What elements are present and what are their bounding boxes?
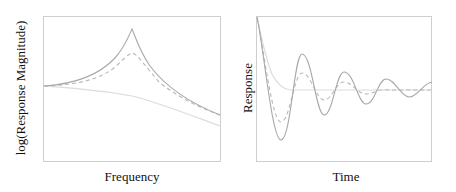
time-curve-heavily-damped <box>257 17 432 90</box>
time-curve-lightly-damped <box>257 17 432 140</box>
frequency-x-axis-label: Frequency <box>82 168 182 186</box>
frequency-response-panel: log(Response Magnitude) Frequency <box>0 0 228 192</box>
frequency-curve-moderately-damped <box>44 53 220 115</box>
frequency-curve-lightly-damped <box>44 29 220 115</box>
time-plot-curves <box>228 0 456 192</box>
frequency-y-axis-label: log(Response Magnitude) <box>13 8 29 168</box>
time-response-panel: Response Time <box>228 0 456 192</box>
frequency-curve-heavily-damped <box>44 86 220 126</box>
frequency-plot-curves <box>0 0 228 192</box>
time-x-axis-label: Time <box>296 168 396 186</box>
time-curve-moderately-damped <box>257 17 432 122</box>
time-y-axis-label: Response <box>240 48 256 128</box>
